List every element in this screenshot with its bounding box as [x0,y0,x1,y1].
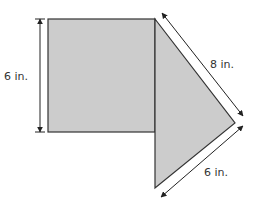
composite-figure-diagram: 6 in. 8 in. 6 in. [0,0,259,211]
triangle-upper-label: 8 in. [210,58,234,71]
square-height-dimension [35,19,45,132]
triangle-lower-label: 6 in. [204,166,228,179]
triangle-shape [155,19,235,188]
square-shape [48,19,155,132]
square-height-label: 6 in. [4,70,28,83]
